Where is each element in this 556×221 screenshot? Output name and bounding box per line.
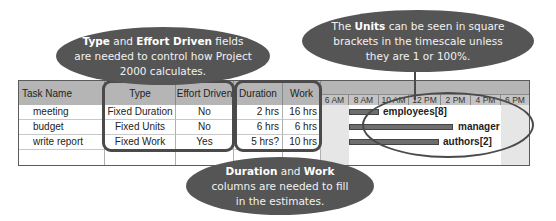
column-header-task-name[interactable]: Task Name bbox=[19, 81, 105, 105]
callout-type-effort-driven: Type and Effort Driven fields are needed… bbox=[56, 27, 270, 85]
highlight-type-effort-columns bbox=[102, 80, 235, 152]
table-row-task-name[interactable]: budget bbox=[19, 120, 105, 135]
table-row-empty[interactable] bbox=[19, 150, 105, 165]
highlight-duration-work-columns bbox=[234, 80, 322, 152]
table-row-empty[interactable] bbox=[105, 150, 176, 165]
table-row-task-name[interactable]: write report bbox=[19, 135, 105, 150]
nonworking-time-shade bbox=[321, 105, 349, 165]
timescale-tick: 6 AM bbox=[321, 95, 349, 105]
callout-duration-work: Duration and Work columns are needed to … bbox=[186, 157, 374, 215]
table-row-task-name[interactable]: meeting bbox=[19, 105, 105, 120]
timescale-tick: 8 AM bbox=[349, 95, 379, 105]
callout-units: The Units can be seen in square brackets… bbox=[302, 10, 534, 72]
highlight-resource-units-ellipse bbox=[362, 92, 534, 158]
